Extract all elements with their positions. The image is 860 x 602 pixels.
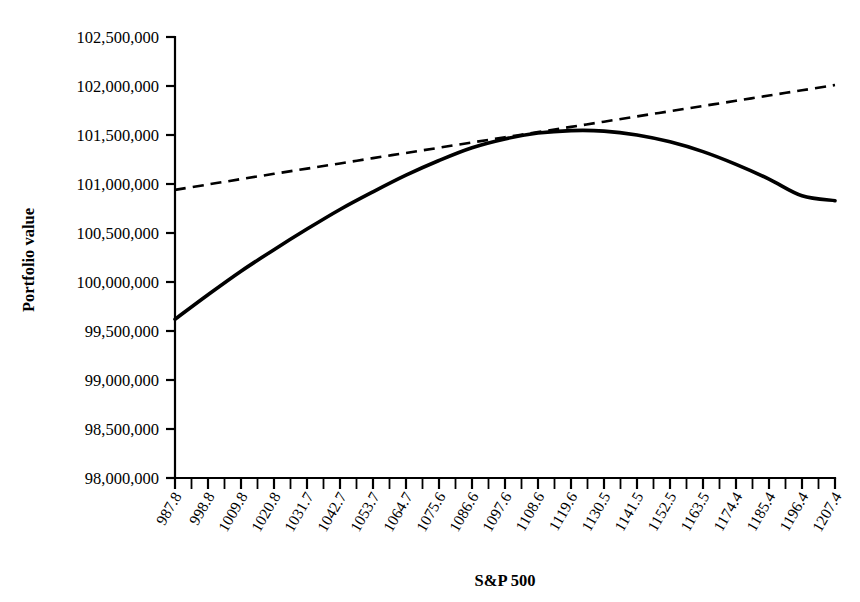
- x-tick-label: 1185.4: [743, 489, 779, 534]
- y-axis-title: Portfolio value: [19, 208, 38, 312]
- x-axis-title: S&P 500: [475, 571, 536, 590]
- portfolio-value-chart: 102,500,000102,000,000101,500,000101,000…: [0, 0, 860, 602]
- x-tick-label: 1009.8: [215, 489, 251, 535]
- y-tick-label: 98,000,000: [85, 469, 159, 488]
- y-axis-tick-labels: 102,500,000102,000,000101,500,000101,000…: [77, 28, 160, 488]
- series-line-portfolio-value: [175, 130, 835, 319]
- y-tick-label: 102,000,000: [77, 77, 160, 96]
- y-tick-label: 98,500,000: [85, 420, 159, 439]
- y-tick-label: 101,000,000: [77, 175, 160, 194]
- x-tick-label: 1042.7: [314, 489, 350, 535]
- x-tick-label: 1097.6: [479, 489, 515, 535]
- x-tick-label: 1031.7: [281, 489, 317, 535]
- x-tick-label: 1152.5: [644, 489, 680, 534]
- y-axis-tick-marks: [166, 37, 175, 478]
- x-tick-label: 1174.4: [710, 489, 746, 534]
- y-tick-label: 102,500,000: [77, 28, 160, 47]
- x-axis-tick-labels: 987.8998.81009.81020.81031.71042.71053.7…: [152, 489, 844, 535]
- y-tick-label: 100,000,000: [77, 273, 160, 292]
- x-tick-label: 987.8: [152, 489, 184, 528]
- x-tick-label: 1196.4: [776, 489, 812, 534]
- y-tick-label: 99,500,000: [85, 322, 159, 341]
- x-tick-label: 998.8: [185, 489, 217, 528]
- x-tick-label: 1207.4: [809, 489, 845, 535]
- x-tick-label: 1064.7: [380, 489, 416, 535]
- x-tick-label: 1086.6: [446, 489, 482, 535]
- y-tick-label: 100,500,000: [77, 224, 160, 243]
- y-tick-label: 99,000,000: [85, 371, 159, 390]
- x-tick-label: 1141.5: [611, 489, 647, 534]
- x-tick-label: 1119.6: [545, 489, 581, 534]
- x-axis-tick-marks: [175, 478, 835, 489]
- x-tick-label: 1075.6: [413, 489, 449, 535]
- x-tick-label: 1108.6: [512, 489, 548, 534]
- axis-frame: [175, 37, 835, 478]
- x-tick-label: 1130.5: [578, 489, 614, 534]
- x-tick-label: 1163.5: [677, 489, 713, 534]
- y-tick-label: 101,500,000: [77, 126, 160, 145]
- x-tick-label: 1020.8: [248, 489, 284, 535]
- x-tick-label: 1053.7: [347, 489, 383, 535]
- plot-area: 102,500,000102,000,000101,500,000101,000…: [77, 28, 845, 534]
